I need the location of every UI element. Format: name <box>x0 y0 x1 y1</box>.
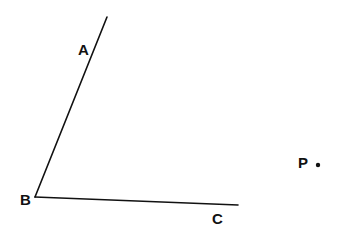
ray-bc <box>35 197 238 205</box>
angle-diagram: A B C P <box>0 0 340 236</box>
label-b: B <box>20 191 31 208</box>
ray-ba <box>35 17 107 197</box>
label-p: P <box>298 154 308 171</box>
diagram-canvas: A B C P <box>0 0 340 236</box>
point-p-dot <box>316 163 320 167</box>
label-c: C <box>212 210 223 227</box>
label-a: A <box>78 41 89 58</box>
